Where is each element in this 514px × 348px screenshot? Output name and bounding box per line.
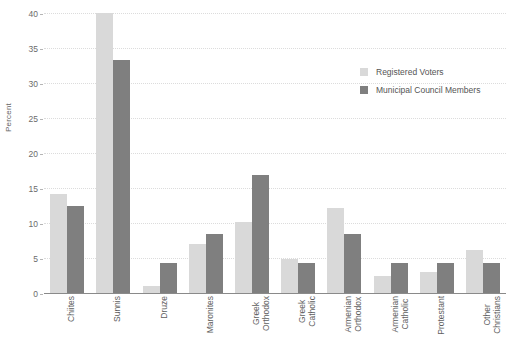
x-axis-tick-label-line: Protestant [437, 296, 447, 335]
x-axis-tick-label: GreekOrthodox [252, 296, 271, 331]
legend-swatch [360, 68, 368, 76]
x-axis-tick-label: OtherChristians [483, 296, 502, 334]
y-axis-tick-label: 30 [29, 79, 38, 89]
y-axis-tick-mark [40, 84, 43, 85]
y-axis-tick-label: 35 [29, 44, 38, 54]
bar [420, 272, 437, 293]
y-axis-tick-mark [40, 259, 43, 260]
bar-group [136, 13, 182, 293]
x-axis-tick-label: ArmenianCatholic [391, 296, 410, 332]
x-axis-tick-label-line: Catholic [308, 296, 318, 327]
y-axis-tick-mark [40, 154, 43, 155]
x-axis-tick-label-line: Orthodox [354, 296, 364, 332]
x-axis-category-labels: ChiitesSunnisDruzeMaronitesGreekOrthodox… [44, 296, 506, 348]
x-axis-label-cell: GreekOrthodox [229, 296, 275, 348]
y-axis-tick-label: 20 [29, 149, 38, 159]
y-axis-title: Percent [4, 118, 13, 132]
bar [327, 208, 344, 293]
y-axis-tick-mark [40, 224, 43, 225]
bar [50, 194, 67, 293]
bars-layer [44, 13, 506, 293]
legend-item: Municipal Council Members [360, 82, 480, 97]
y-axis-tick-label: 10 [29, 219, 38, 229]
x-axis-tick-label-line: Armenian [391, 296, 401, 332]
bar [96, 13, 113, 293]
bar [67, 206, 84, 294]
bar [483, 263, 500, 293]
x-axis-tick-label: Druze [160, 296, 170, 319]
bar [206, 234, 223, 293]
bar [143, 286, 160, 293]
bar [235, 222, 252, 293]
legend: Registered VotersMunicipal Council Membe… [360, 64, 480, 100]
y-axis-tick-mark [40, 119, 43, 120]
bar [252, 175, 269, 293]
bar [189, 244, 206, 293]
x-axis-tick-label: ArmenianOrthodox [344, 296, 363, 332]
bar-group [183, 13, 229, 293]
x-axis-tick-label: Maronites [206, 296, 216, 333]
y-axis-tick-label: 5 [33, 254, 38, 264]
bar-group [90, 13, 136, 293]
x-axis-label-cell: Protestant [414, 296, 460, 348]
x-axis-label-cell: ArmenianOrthodox [321, 296, 367, 348]
x-axis-label-cell: OtherChristians [460, 296, 506, 348]
x-axis-label-cell: ArmenianCatholic [367, 296, 413, 348]
x-axis-tick-label-line: Catholic [400, 296, 410, 332]
x-axis-tick-label-line: Sunnis [113, 296, 123, 322]
x-axis-tick-label-line: Christians [492, 296, 502, 334]
bar-group [414, 13, 460, 293]
legend-label: Registered Voters [376, 67, 444, 77]
x-axis-label-cell: Chiites [44, 296, 90, 348]
axis-baseline: 0 [44, 293, 506, 294]
bar-chart: Percent 0510152025303540 ChiitesSunnisDr… [0, 0, 514, 348]
y-axis-tick-mark [40, 49, 43, 50]
bar-group [229, 13, 275, 293]
x-axis-tick-label-line: Orthodox [261, 296, 271, 331]
x-axis-label-cell: Sunnis [90, 296, 136, 348]
bar [298, 263, 315, 293]
bar-group [44, 13, 90, 293]
legend-label: Municipal Council Members [376, 85, 480, 95]
y-axis-tick-mark [40, 189, 43, 190]
x-axis-tick-label: Sunnis [113, 296, 123, 322]
y-axis-tick-mark [40, 294, 43, 295]
x-axis-tick-label-line: Greek [252, 296, 262, 331]
x-axis-tick-label: GreekCatholic [298, 296, 317, 327]
bar-group [275, 13, 321, 293]
bar [160, 263, 177, 293]
bar [391, 263, 408, 293]
bar [374, 276, 391, 293]
bar-group [321, 13, 367, 293]
bar-group [367, 13, 413, 293]
bar [437, 263, 454, 293]
x-axis-label-cell: Druze [136, 296, 182, 348]
x-axis-tick-label: Protestant [437, 296, 447, 335]
x-axis-tick-label-line: Druze [160, 296, 170, 319]
bar [466, 250, 483, 293]
bar [281, 259, 298, 293]
y-axis-tick-mark [40, 14, 43, 15]
x-axis-label-cell: GreekCatholic [275, 296, 321, 348]
bar-group [460, 13, 506, 293]
legend-item: Registered Voters [360, 64, 480, 79]
x-axis-label-cell: Maronites [183, 296, 229, 348]
bar [113, 60, 130, 293]
x-axis-tick-label: Chiites [67, 296, 77, 322]
bar [344, 234, 361, 293]
x-axis-tick-label-line: Chiites [67, 296, 77, 322]
y-axis-tick-label: 15 [29, 184, 38, 194]
y-axis-tick-label: 25 [29, 114, 38, 124]
legend-swatch [360, 86, 368, 94]
x-axis-tick-label-line: Other [483, 296, 493, 334]
plot-area: 0510152025303540 [44, 13, 506, 293]
y-axis-tick-label: 0 [33, 289, 38, 299]
x-axis-tick-label-line: Maronites [206, 296, 216, 333]
y-axis-tick-label: 40 [29, 9, 38, 19]
